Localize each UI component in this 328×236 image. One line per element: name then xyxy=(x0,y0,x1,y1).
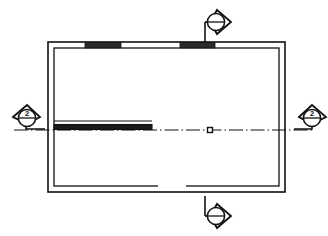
top-wall-openings xyxy=(85,43,215,48)
section-marker-bottom[interactable] xyxy=(205,196,231,228)
section-marker-right[interactable]: 2 xyxy=(294,105,326,129)
section-marker-left[interactable]: 2 xyxy=(13,105,45,129)
center-point-marker xyxy=(208,128,213,133)
section-marker-right-label: 2 xyxy=(310,109,314,118)
bottom-wall-openings xyxy=(158,184,186,189)
wall-inner-boundary xyxy=(54,48,279,186)
door-bottom-center xyxy=(158,184,186,189)
floor-plan-drawing: 2 2 xyxy=(0,0,328,236)
section-marker-left-label: 2 xyxy=(25,109,29,118)
floor-plan-canvas: 2 2 xyxy=(0,0,328,236)
interior-partition-wall-group xyxy=(54,121,152,130)
building-walls xyxy=(48,42,285,192)
interior-partition-wall xyxy=(54,125,152,130)
window-top-left xyxy=(85,43,121,48)
wall-outer-boundary xyxy=(48,42,285,192)
window-top-right xyxy=(180,43,215,48)
section-marker-top[interactable] xyxy=(205,10,231,43)
